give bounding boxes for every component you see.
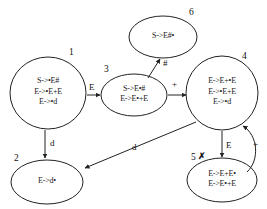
transition-arrow-3-to-6 [148,59,160,78]
state-items-4: E->E+•EE->•E+EE->•d [186,76,258,108]
state-number-1: 1 [69,47,74,57]
transition-arrow-4-to-2 [85,122,196,168]
transition-label-4-to-2: d [132,142,137,152]
item-production: S->E#• [129,31,197,42]
transition-label-3-to-6: # [163,58,168,68]
item-production: E->d• [11,176,83,187]
transition-arrow-5-to-4 [243,126,256,172]
transition-label-1-to-2: d [50,138,55,148]
state-number-4: 4 [242,51,247,61]
state-items-3: S->E•#E->E•+E [101,84,167,105]
item-production: E->E•+E [101,94,167,105]
transition-label-3-to-4: + [172,79,177,89]
item-production: E->•d [186,97,258,108]
lr-automaton-diagram: S->•E#E->•E+EE->•dE->d•S->E•#E->E•+EE->E… [0,0,267,209]
item-production: E->E+E• [187,169,257,180]
item-production: E->•E+E [10,87,86,98]
item-production: E->•d [10,97,86,108]
state-items-6: S->E#• [129,31,197,42]
state-items-1: S->•E#E->•E+EE->•d [10,76,86,108]
transition-label-1-to-3: E [89,82,95,92]
state-number-5: 5 [191,152,196,162]
state-items-2: E->d• [11,176,83,187]
transition-label-4-to-5: E [226,140,232,150]
transition-label-5-to-4: + [253,139,258,149]
state-number-3: 3 [104,64,109,74]
item-production: E->E+•E [186,76,258,87]
item-production: S->•E# [10,76,86,87]
state-number-6: 6 [189,7,194,17]
state-number-2: 2 [14,153,19,163]
item-production: S->E•# [101,84,167,95]
item-production: E->E•+E [187,179,257,190]
state-items-5: E->E+E•E->E•+E [187,169,257,190]
state-conflict-mark-5: ✗ [198,151,206,161]
item-production: E->•E+E [186,87,258,98]
